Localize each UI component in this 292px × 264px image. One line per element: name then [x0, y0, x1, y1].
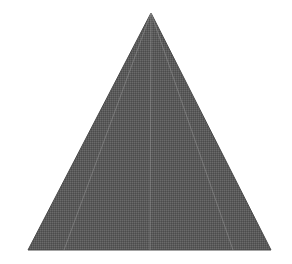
figure-canvas [0, 0, 292, 264]
triangle-shape [28, 13, 271, 250]
triangle-figure [0, 0, 292, 264]
